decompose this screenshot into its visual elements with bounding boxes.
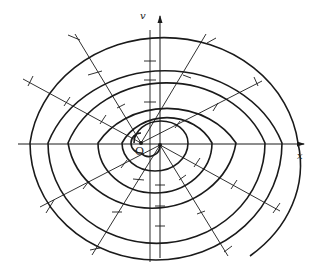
spiral-diagram bbox=[0, 0, 320, 276]
spiral-curve bbox=[30, 38, 300, 260]
x-axis-label: x bbox=[297, 150, 303, 161]
radial-line bbox=[23, 79, 141, 143]
origin-label: O bbox=[135, 145, 144, 158]
center-point-second bbox=[158, 143, 162, 147]
v-axis-label: v bbox=[140, 10, 146, 21]
radial-line bbox=[160, 145, 228, 256]
